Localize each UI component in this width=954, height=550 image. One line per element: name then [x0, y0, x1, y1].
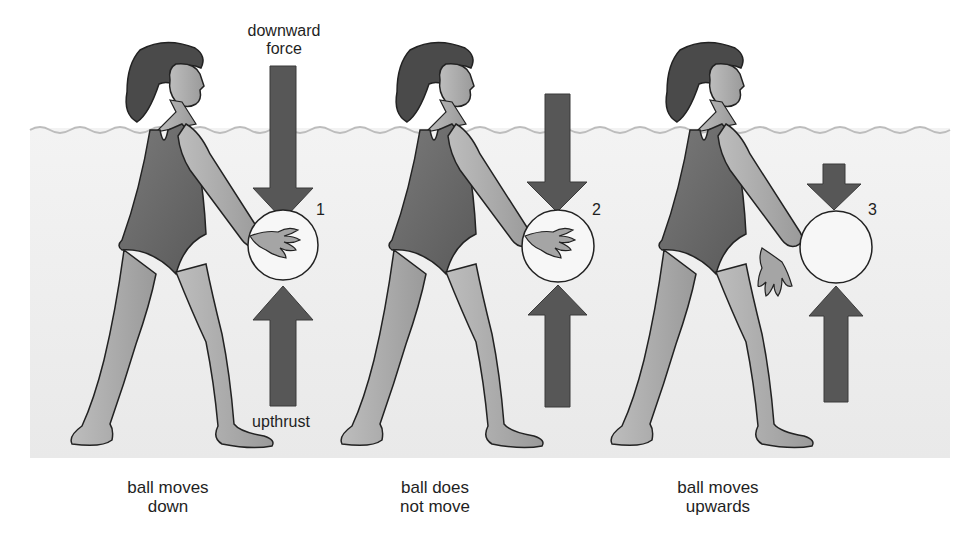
scene-1-forces [248, 66, 318, 406]
downward-force-arrow-2 [527, 94, 587, 212]
caption-scene-2-line2: not move [365, 497, 505, 516]
caption-scene-1: ball moves down [98, 478, 238, 516]
buoyancy-diagram: downward force upthrust 1 2 3 ball moves… [0, 0, 954, 550]
caption-scene-3-line2: upwards [648, 497, 788, 516]
upthrust-arrow-1 [253, 286, 313, 406]
ball-number-1: 1 [316, 201, 325, 219]
downward-force-label-line2: force [232, 40, 336, 58]
downward-force-arrow-3 [807, 164, 861, 210]
downward-force-label-line1: downward [232, 22, 336, 40]
woman-figure-1 [71, 42, 273, 447]
upthrust-label: upthrust [236, 413, 326, 431]
caption-scene-3-line1: ball moves [648, 478, 788, 497]
caption-scene-1-line1: ball moves [98, 478, 238, 497]
caption-scene-2-line1: ball does [365, 478, 505, 497]
upthrust-arrow-2 [528, 285, 587, 407]
ball-number-3: 3 [868, 201, 877, 219]
ball-number-2: 2 [592, 201, 601, 219]
downward-force-label: downward force [232, 22, 336, 58]
caption-scene-2: ball does not move [365, 478, 505, 516]
woman-figure-3 [611, 42, 813, 447]
ball-3 [800, 211, 872, 283]
caption-scene-1-line2: down [98, 497, 238, 516]
woman-figure-2 [341, 42, 543, 447]
upthrust-arrow-3 [809, 286, 863, 402]
scene-2-forces [522, 94, 594, 407]
hand-3 [758, 248, 792, 296]
illustration [0, 0, 954, 550]
downward-force-arrow-1 [253, 66, 313, 220]
caption-scene-3: ball moves upwards [648, 478, 788, 516]
